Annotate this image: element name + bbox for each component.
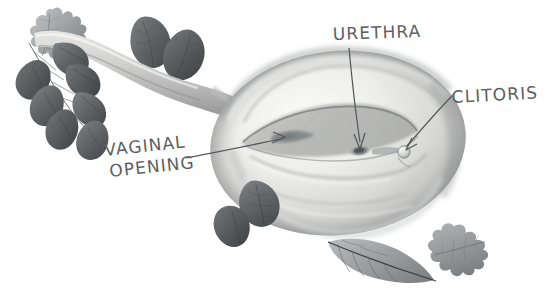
illustration-svg: URETHRA CLITORIS VAGINAL OPENING [0, 0, 553, 303]
illustration-canvas: URETHRA CLITORIS VAGINAL OPENING [0, 0, 553, 303]
label-urethra: URETHRA [332, 21, 421, 44]
